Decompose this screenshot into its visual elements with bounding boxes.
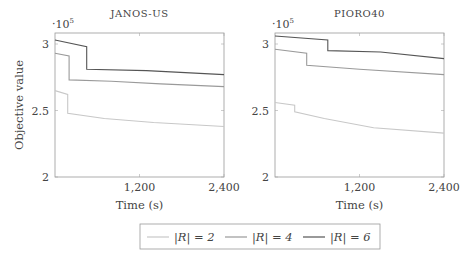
legend-label: |R| = 2 (174, 230, 215, 245)
x-axis-label: Time (s) (336, 198, 384, 212)
series-line (275, 36, 444, 59)
series-line (275, 103, 444, 134)
y-multiplier: ·105 (52, 17, 74, 31)
x-tick-label: 2,400 (208, 181, 240, 194)
series-line (55, 91, 224, 127)
plot-frame (275, 33, 444, 177)
plot-1: 22.531,2002,400·105JANOS-USTime (s)Objec… (12, 8, 240, 212)
y-tick-label: 2.5 (32, 105, 50, 118)
x-tick-label: 1,200 (124, 181, 156, 194)
chart-canvas: 22.531,2002,400·105JANOS-USTime (s)Objec… (0, 0, 471, 261)
y-tick-label: 2 (262, 171, 269, 184)
x-axis-label: Time (s) (116, 198, 164, 212)
y-multiplier: ·105 (272, 17, 294, 31)
legend: |R| = 2|R| = 4|R| = 6 (140, 224, 380, 249)
x-tick-label: 2,400 (428, 181, 460, 194)
y-tick-label: 3 (262, 38, 269, 51)
x-tick-label: 1,200 (344, 181, 376, 194)
y-tick-label: 2.5 (252, 105, 270, 118)
y-axis-label: Objective value (12, 60, 26, 150)
plot-frame (55, 33, 224, 177)
plot-2: 22.531,2002,400·105PIORO40Time (s) (252, 8, 460, 212)
y-tick-label: 2 (42, 171, 49, 184)
series-line (55, 40, 224, 75)
y-tick-label: 3 (42, 38, 49, 51)
legend-label: |R| = 4 (252, 230, 293, 245)
legend-label: |R| = 6 (330, 230, 371, 245)
plot-title: PIORO40 (334, 8, 385, 19)
series-line (275, 49, 444, 74)
plot-title: JANOS-US (109, 8, 168, 19)
